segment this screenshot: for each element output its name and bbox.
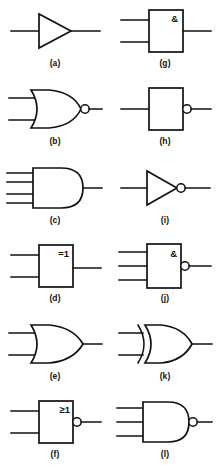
gate-cell-and-4input: (c): [0, 157, 110, 235]
gate-caption: (j): [161, 294, 169, 303]
gate-cell-or: (e): [0, 313, 110, 391]
gate-cell-nand-3input: (l): [110, 391, 220, 469]
gate-caption: (e): [50, 372, 61, 381]
gate-grid: (a) & (g): [0, 0, 220, 470]
and-iec-label: &: [171, 13, 178, 24]
nor-iec-label: ≥1: [60, 404, 71, 415]
and-4input-symbol: [3, 161, 107, 215]
gate-caption: (d): [49, 294, 60, 303]
gate-caption: (k): [160, 372, 171, 381]
and-iec-symbol: &: [113, 4, 217, 58]
gate-cell-nand-iec: & (j): [110, 235, 220, 313]
or-symbol: [3, 317, 107, 371]
inverter-iec-symbol: [113, 82, 217, 136]
gate-cell-buffer: (a): [0, 0, 110, 78]
xor-symbol: [113, 317, 217, 371]
gate-caption: (h): [159, 137, 170, 146]
gate-caption: (b): [49, 137, 60, 146]
buffer-symbol: [3, 4, 107, 58]
gate-caption: (f): [51, 450, 60, 459]
nor-iec-symbol: ≥1: [3, 395, 107, 449]
logic-gate-figure: (a) & (g): [0, 0, 220, 470]
gate-cell-nor: (b): [0, 78, 110, 156]
gate-caption: (g): [159, 59, 170, 68]
gate-caption: (a): [50, 59, 61, 68]
gate-caption: (l): [161, 450, 169, 459]
gate-caption: (i): [161, 216, 169, 225]
gate-caption: (c): [50, 216, 61, 225]
xor-iec-label: =1: [58, 247, 70, 258]
gate-cell-xor: (k): [110, 313, 220, 391]
nand-3input-symbol: [113, 395, 217, 449]
nand-iec-symbol: &: [113, 239, 217, 293]
nor-symbol: [3, 82, 107, 136]
gate-cell-and-iec: & (g): [110, 0, 220, 78]
gate-cell-not: (i): [110, 157, 220, 235]
gate-cell-nor-iec: ≥1 (f): [0, 391, 110, 469]
not-symbol: [113, 161, 217, 215]
nand-iec-label: &: [170, 247, 177, 258]
xor-iec-symbol: =1: [3, 239, 107, 293]
gate-cell-inverter-iec: (h): [110, 78, 220, 156]
gate-cell-xor-iec: =1 (d): [0, 235, 110, 313]
